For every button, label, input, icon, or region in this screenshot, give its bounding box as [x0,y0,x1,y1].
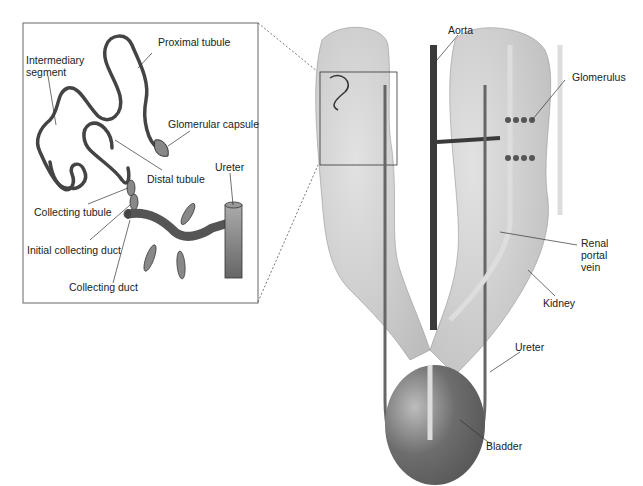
label-renal-portal-vein-2: portal [581,249,607,261]
left-kidney [316,27,430,360]
label-collecting-duct: Collecting duct [69,281,138,293]
right-kidney [430,28,551,375]
label-initial-collecting-duct: Initial collecting duct [27,244,121,256]
label-kidney: Kidney [543,297,575,309]
label-intermediary-segment-2: segment [26,66,66,78]
label-renal-portal-vein-3: vein [581,261,600,273]
label-intermediary-segment-1: Intermediary [26,54,84,66]
bladder [385,365,485,485]
label-collecting-tubule: Collecting tubule [34,206,112,218]
label-ureter: Ureter [515,341,544,353]
label-proximal-tubule: Proximal tubule [158,36,230,48]
label-inset-ureter: Ureter [215,161,244,173]
label-bladder: Bladder [486,440,522,452]
kidney-diagram [0,0,643,486]
aorta [430,45,437,330]
label-aorta: Aorta [448,24,473,36]
label-glomerulus: Glomerulus [572,71,626,83]
label-distal-tubule: Distal tubule [147,173,205,185]
label-glomerular-capsule: Glomerular capsule [168,118,259,130]
label-renal-portal-vein-1: Renal [581,237,608,249]
